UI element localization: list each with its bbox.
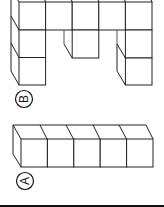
cube-figure: B A	[0, 0, 164, 207]
option-a-letter: A	[18, 177, 32, 185]
option-b-shape	[11, 0, 152, 85]
option-b-label: B	[16, 91, 33, 108]
bottom-divider	[0, 205, 164, 207]
option-b-letter: B	[17, 95, 31, 103]
option-a-label: A	[17, 173, 34, 190]
option-a-shape	[13, 125, 153, 167]
